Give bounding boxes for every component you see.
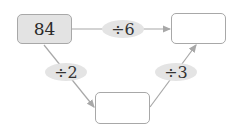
operation-left: ÷2 xyxy=(45,63,87,81)
start-box: 84 xyxy=(17,14,72,44)
operation-right-label: ÷3 xyxy=(164,63,188,82)
operation-left-label: ÷2 xyxy=(54,63,78,82)
top-right-answer-box[interactable] xyxy=(171,13,226,44)
operation-top-label: ÷6 xyxy=(111,20,135,39)
bottom-answer-box[interactable] xyxy=(95,92,150,124)
start-value: 84 xyxy=(34,19,56,39)
operation-top: ÷6 xyxy=(102,20,144,38)
operation-right: ÷3 xyxy=(155,63,197,81)
